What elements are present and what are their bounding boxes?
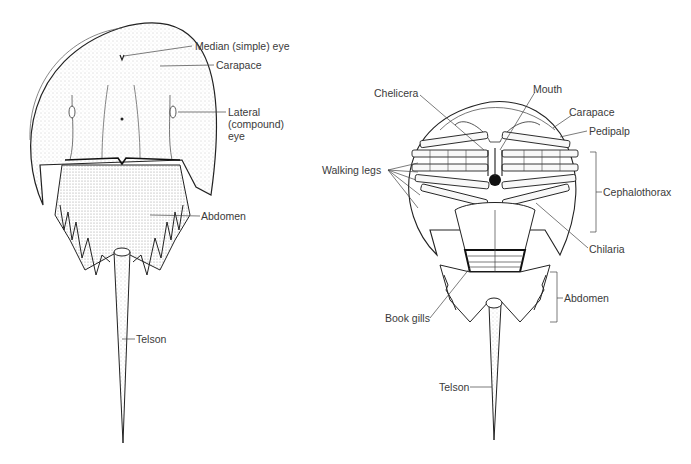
label-book-gills: Book gills — [385, 312, 430, 324]
label-lateral-eye-line3: eye — [228, 130, 245, 142]
label-abdomen-ventral: Abdomen — [564, 292, 609, 304]
label-cephalothorax: Cephalothorax — [603, 186, 671, 198]
label-telson-ventral: Telson — [439, 381, 469, 393]
label-carapace-ventral: Carapace — [569, 106, 615, 118]
dorsal-telson — [114, 252, 130, 443]
label-lateral-eye-line2: (compound) — [228, 118, 284, 130]
ventral-view — [388, 92, 602, 440]
label-walking-legs: Walking legs — [322, 164, 381, 176]
label-median-eye: Median (simple) eye — [195, 40, 290, 52]
label-lateral-eye-line1: Lateral — [228, 106, 260, 118]
label-chelicera: Chelicera — [374, 87, 418, 99]
illustration — [0, 0, 691, 464]
label-chilaria: Chilaria — [589, 243, 625, 255]
ventral-telson — [489, 305, 501, 440]
label-carapace-dorsal: Carapace — [216, 59, 262, 71]
label-telson-dorsal: Telson — [136, 333, 166, 345]
label-mouth: Mouth — [533, 83, 562, 95]
dorsal-view — [30, 23, 226, 443]
label-pedipalp: Pedipalp — [589, 125, 630, 137]
label-abdomen-dorsal: Abdomen — [201, 210, 246, 222]
